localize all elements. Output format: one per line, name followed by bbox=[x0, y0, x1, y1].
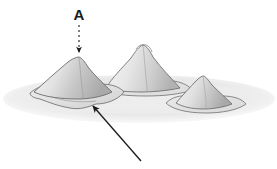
figure-container: A bbox=[0, 0, 277, 169]
label-a: A bbox=[74, 6, 85, 23]
middle-peak-body bbox=[106, 45, 180, 92]
topography-illustration: A bbox=[0, 0, 277, 169]
